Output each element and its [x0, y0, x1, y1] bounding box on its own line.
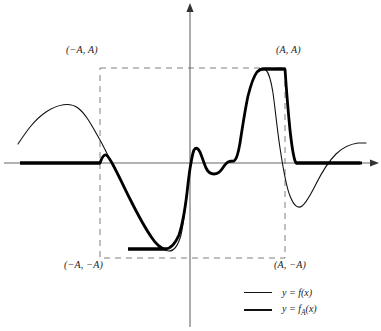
legend: y = f(x) y = fA(x)	[243, 283, 378, 319]
legend-label-f-prefix: y = f(	[282, 287, 304, 298]
legend-label-fA-subscript: A	[301, 308, 306, 317]
legend-label-f: y = f(x)	[282, 287, 312, 298]
legend-label-fA-prefix: y = f	[282, 303, 301, 314]
corner-label-top-left: (−A, A)	[66, 44, 98, 55]
legend-label-fA-suffix: )	[313, 303, 316, 314]
clipping-function-figure	[0, 0, 381, 331]
legend-entry-fA: y = fA(x)	[243, 301, 378, 319]
legend-entry-f: y = f(x)	[243, 283, 378, 301]
legend-label-fA: y = fA(x)	[282, 303, 317, 317]
legend-label-f-suffix: )	[309, 287, 312, 298]
corner-label-bottom-right: (A, −A)	[274, 259, 306, 270]
corner-label-bottom-left: (−A, −A)	[64, 259, 103, 270]
legend-swatch-thick-line	[243, 309, 273, 312]
corner-label-top-right: (A, A)	[276, 44, 301, 55]
legend-swatch-thin-line	[243, 292, 273, 293]
